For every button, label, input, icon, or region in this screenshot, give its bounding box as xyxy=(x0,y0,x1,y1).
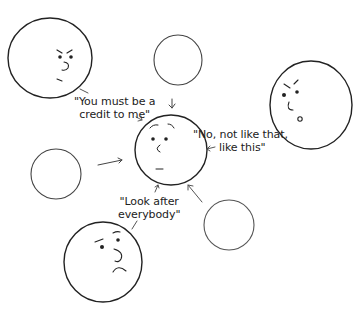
eyebrow-left-icon xyxy=(284,84,290,88)
caption-not-like-that: "No, not like that, like this" xyxy=(193,128,288,154)
mouth-icon xyxy=(298,117,302,121)
pointer-line xyxy=(132,221,137,229)
eyebrow-right-icon xyxy=(294,80,298,84)
eye-left-icon xyxy=(282,93,286,97)
eye-right-icon xyxy=(295,90,299,94)
caption-credit-line2: credit to me" xyxy=(74,108,155,121)
eyebrow-left-icon xyxy=(150,125,158,128)
mouth-icon xyxy=(57,79,62,81)
diagram-canvas xyxy=(0,0,359,311)
caption-credit: "You must be a credit to me" xyxy=(74,95,155,121)
eyebrow-right-icon xyxy=(113,232,120,233)
eye-right-icon xyxy=(164,137,168,141)
bottom-face xyxy=(64,221,142,302)
caption-look-after-line2: everybody" xyxy=(118,208,180,221)
eye-left-icon xyxy=(151,137,155,141)
face-outline xyxy=(8,18,92,98)
nose-icon xyxy=(288,102,293,110)
eyebrow-left-icon xyxy=(95,239,103,242)
top-center-circle xyxy=(154,35,202,85)
caption-not-like-that-line2: like this" xyxy=(193,141,288,154)
mouth-icon xyxy=(113,268,126,272)
caption-not-like-that-line1: "No, not like that, xyxy=(193,128,288,141)
eye-right-icon xyxy=(116,238,120,242)
nose-icon xyxy=(157,145,160,152)
nose-icon xyxy=(62,62,69,70)
arrow-up-left-icon xyxy=(188,185,202,202)
face-outline xyxy=(64,222,142,302)
caption-look-after: "Look after everybody" xyxy=(118,195,180,221)
caption-credit-line1: "You must be a xyxy=(74,95,155,108)
eyebrow-left-icon xyxy=(57,50,62,53)
top-left-face xyxy=(8,18,92,98)
arrow-right-icon xyxy=(98,158,122,165)
eyebrow-right-icon xyxy=(168,124,174,128)
pointer-line xyxy=(80,89,88,93)
left-circle xyxy=(31,149,81,199)
nose-icon xyxy=(114,249,122,262)
eyebrow-right-icon xyxy=(67,50,72,53)
bottom-right-circle xyxy=(204,200,254,250)
caption-look-after-line1: "Look after xyxy=(118,195,180,208)
eye-left-icon xyxy=(100,245,104,249)
arrow-down-icon xyxy=(169,99,175,108)
eye-right-icon xyxy=(69,55,73,59)
arrow-up-icon xyxy=(155,185,159,192)
eye-left-icon xyxy=(58,55,62,59)
